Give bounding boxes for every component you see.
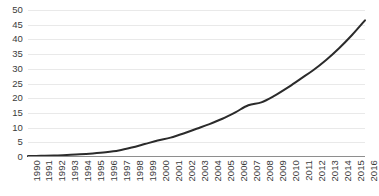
x-axis-tick-label: 2012: [317, 160, 327, 182]
x-axis-tick-label: 2007: [252, 160, 262, 182]
x-axis-tick-label: 2001: [174, 160, 184, 182]
x-axis-tick-label: 1997: [122, 160, 132, 182]
y-axis-tick-label: 15: [12, 108, 23, 118]
x-axis-tick-label: 2006: [239, 160, 249, 182]
y-axis-tick-label: 0: [18, 152, 23, 162]
x-axis-tick-label: 1994: [83, 160, 93, 182]
y-axis-tick-label: 10: [12, 123, 23, 133]
x-axis-tick-label: 2003: [200, 160, 210, 182]
y-axis-tick-label: 35: [12, 49, 23, 59]
x-axis-tick-label: 1999: [148, 160, 158, 182]
y-axis: 05101520253035404550: [0, 0, 26, 160]
y-axis-tick-label: 5: [18, 138, 23, 148]
x-axis-tick-label: 1998: [135, 160, 145, 182]
x-axis-tick-label: 2011: [304, 160, 314, 181]
y-axis-tick-label: 40: [12, 35, 23, 45]
x-axis-tick-label: 1990: [32, 160, 42, 182]
x-axis-tick-label: 2000: [161, 160, 171, 182]
x-axis-tick-label: 1996: [109, 160, 119, 182]
y-axis-tick-label: 50: [12, 5, 23, 15]
x-axis-tick-label: 1992: [57, 160, 67, 182]
y-axis-tick-label: 25: [12, 79, 23, 89]
y-axis-tick-label: 30: [12, 64, 23, 74]
x-axis-tick-label: 2013: [330, 160, 340, 182]
y-axis-tick-label: 20: [12, 93, 23, 103]
x-axis-tick-label: 2004: [213, 160, 223, 182]
x-axis-line: [28, 156, 365, 157]
x-axis-tick-label: 1995: [96, 160, 106, 182]
x-axis: 1990199119921993199419951996199719981999…: [28, 158, 365, 196]
x-axis-tick-label: 2005: [226, 160, 236, 182]
x-axis-tick-label: 2002: [187, 160, 197, 182]
x-axis-tick-label: 1993: [70, 160, 80, 182]
x-axis-tick-label: 2009: [278, 160, 288, 182]
x-axis-tick-label: 2016: [369, 160, 379, 182]
x-axis-tick-label: 2010: [291, 160, 301, 182]
y-axis-tick-label: 45: [12, 20, 23, 30]
x-axis-tick-label: 1991: [44, 160, 54, 182]
x-axis-tick-label: 2008: [265, 160, 275, 182]
series-line: [28, 10, 365, 157]
x-axis-tick-label: 2015: [356, 160, 366, 182]
data-line: [28, 20, 365, 156]
x-axis-tick-label: 2014: [343, 160, 353, 182]
plot-area: [28, 10, 365, 157]
